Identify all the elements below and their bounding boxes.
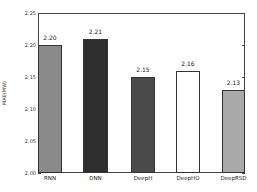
y-tick-label: 2.10 (25, 106, 36, 112)
x-tick-label: DeepHO (177, 175, 200, 181)
y-tick-label: 2.15 (25, 74, 36, 80)
bar-dnn (83, 39, 108, 173)
x-tick-label: DeepRSD (220, 175, 246, 181)
x-tick-label: DeepH (134, 175, 153, 181)
x-tick-label: RNN (44, 175, 56, 181)
y-tick-mark (242, 173, 245, 174)
y-tick-label: 2.25 (25, 10, 36, 16)
bar-deepho (176, 71, 200, 173)
bar-value-label: 2.16 (181, 60, 194, 67)
bar-value-label: 2.20 (43, 34, 56, 41)
y-tick-mark (38, 173, 41, 174)
bar-value-label: 2.13 (227, 79, 240, 86)
bar-value-label: 2.21 (89, 28, 102, 35)
y-tick-mark (38, 13, 41, 14)
y-tick-mark (242, 45, 245, 46)
y-tick-mark (242, 13, 245, 14)
x-tick-label: DNN (89, 175, 101, 181)
y-tick-label: 2.00 (25, 170, 36, 176)
y-tick-mark (242, 77, 245, 78)
bar-rnn (38, 45, 62, 173)
bar-deeph (131, 77, 155, 173)
y-tick-label: 2.05 (25, 138, 36, 144)
bar-deeprsd (222, 90, 245, 173)
y-tick-label: 2.20 (25, 42, 36, 48)
y-axis-label: MAE(MW) (1, 81, 7, 105)
bar-value-label: 2.15 (136, 66, 149, 73)
